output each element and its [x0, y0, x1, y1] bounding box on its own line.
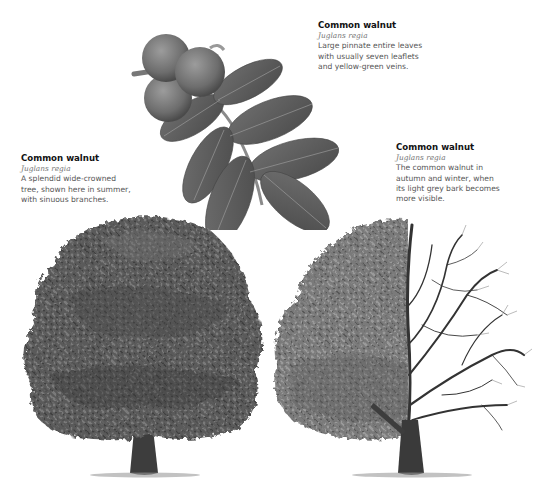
caption-line: The common walnut in	[396, 163, 521, 173]
caption-line: with sinuous branches.	[21, 195, 136, 205]
caption-title: Common walnut	[396, 142, 521, 153]
caption-latin-name: Juglans regia	[21, 164, 136, 174]
caption-latin-name: Juglans regia	[396, 153, 521, 163]
leaf-branch-illustration	[130, 30, 350, 230]
winter-tree-caption: Common walnut Juglans regia The common w…	[396, 142, 521, 204]
caption-line: more visible.	[396, 194, 521, 204]
caption-line: Large pinnate entire leaves	[318, 41, 438, 51]
caption-line: autumn and winter, when	[396, 174, 521, 184]
caption-title: Common walnut	[21, 153, 136, 164]
caption-line: A splendid wide-crowned	[21, 174, 136, 184]
caption-line: tree, shown here in summer,	[21, 185, 136, 195]
leaf-caption: Common walnut Juglans regia Large pinnat…	[318, 20, 438, 72]
caption-line: and yellow-green veins.	[318, 62, 438, 72]
caption-title: Common walnut	[318, 20, 438, 31]
winter-tree-illustration	[262, 205, 537, 495]
caption-line: its light grey bark becomes	[396, 184, 521, 194]
caption-latin-name: Juglans regia	[318, 31, 438, 41]
summer-tree-illustration	[10, 205, 280, 495]
summer-tree-caption: Common walnut Juglans regia A splendid w…	[21, 153, 136, 205]
caption-line: with usually seven leaflets	[318, 52, 438, 62]
